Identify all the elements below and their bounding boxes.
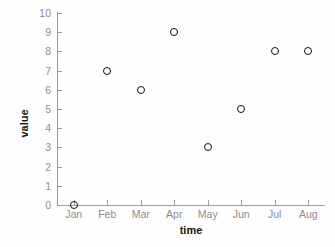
x-axis-line (57, 205, 325, 206)
data-point-marker (70, 201, 78, 209)
x-tick-mark (107, 200, 108, 205)
y-tick-label: 3 (45, 141, 51, 153)
x-tick-mark (241, 200, 242, 205)
y-tick-mark (58, 32, 62, 33)
y-tick-mark (58, 109, 62, 110)
x-tick-mark (208, 200, 209, 205)
x-tick-label: Jan (65, 208, 82, 220)
y-tick-mark (58, 186, 62, 187)
x-tick-label: Mar (132, 208, 150, 220)
data-point-marker (137, 86, 145, 94)
data-point-marker (304, 47, 312, 55)
y-tick-mark (58, 128, 62, 129)
y-tick-label: 2 (45, 161, 51, 173)
y-tick-mark (58, 51, 62, 52)
y-tick-label: 4 (45, 122, 51, 134)
y-tick-mark (58, 205, 62, 206)
y-tick-mark (58, 90, 62, 91)
x-tick-label: Jul (268, 208, 281, 220)
x-tick-label: Aug (299, 208, 318, 220)
y-tick-label: 0 (45, 199, 51, 211)
y-tick-label: 7 (45, 65, 51, 77)
y-axis-title: value (14, 0, 34, 247)
x-tick-mark (141, 200, 142, 205)
y-tick-mark (58, 147, 62, 148)
x-tick-label: Feb (98, 208, 116, 220)
y-tick-label: 6 (45, 84, 51, 96)
x-tick-mark (275, 200, 276, 205)
plot-area: 012345678910 JanFebMarAprMayJunJulAug (57, 13, 325, 205)
scatter-plot-figure: value time 012345678910 JanFebMarAprMayJ… (0, 0, 335, 247)
x-tick-label: Jun (233, 208, 250, 220)
y-tick-label: 8 (45, 45, 51, 57)
y-tick-label: 5 (45, 103, 51, 115)
y-tick-mark (58, 167, 62, 168)
y-tick-mark (58, 71, 62, 72)
y-tick-label: 10 (39, 7, 51, 19)
data-point-marker (103, 67, 111, 75)
x-tick-label: Apr (166, 208, 182, 220)
x-tick-mark (308, 200, 309, 205)
x-tick-label: May (198, 208, 218, 220)
data-point-marker (204, 143, 212, 151)
y-tick-label: 1 (45, 180, 51, 192)
data-point-marker (271, 47, 279, 55)
y-tick-mark (58, 13, 62, 14)
x-tick-mark (174, 200, 175, 205)
y-tick-label: 9 (45, 26, 51, 38)
x-axis-title: time (57, 224, 325, 236)
data-point-marker (237, 105, 245, 113)
data-point-marker (170, 28, 178, 36)
